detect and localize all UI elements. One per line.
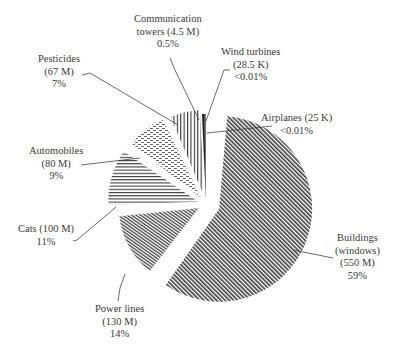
label-text: 14%: [95, 328, 144, 341]
label-text: (67 M): [38, 66, 80, 79]
label-text: Automobiles: [29, 145, 83, 158]
label-text: <0.01%: [221, 71, 280, 84]
label-buildings: Buildings (windows) (550 M) 59%: [335, 232, 380, 282]
label-text: 59%: [335, 270, 380, 283]
label-power-lines: Power lines (130 M) 14%: [95, 303, 144, 341]
pie-slices: [108, 110, 312, 301]
label-text: (windows): [335, 245, 380, 258]
label-text: (80 M): [29, 158, 83, 171]
label-text: 7%: [38, 78, 80, 91]
label-text: Cats (100 M): [18, 223, 74, 236]
label-comm-towers: Communication towers (4.5 M) 0.5%: [134, 13, 202, 51]
label-text: (130 M): [95, 316, 144, 329]
label-text: Wind turbines: [221, 46, 280, 59]
label-text: Buildings: [335, 232, 380, 245]
leader-line-comm: [170, 58, 199, 120]
label-text: (28.5 K): [221, 59, 280, 72]
leader-line-cats: [73, 207, 116, 241]
label-text: 11%: [18, 236, 74, 249]
label-text: Pesticides: [38, 53, 80, 66]
label-text: 0.5%: [134, 38, 202, 51]
label-text: Airplanes (25 K): [261, 112, 332, 125]
label-text: <0.01%: [261, 125, 332, 138]
label-automobiles: Automobiles (80 M) 9%: [29, 145, 83, 183]
leader-line-powerlines: [118, 274, 125, 301]
label-text: Power lines: [95, 303, 144, 316]
label-text: Communication: [134, 13, 202, 26]
label-airplanes: Airplanes (25 K) <0.01%: [261, 112, 332, 137]
label-pesticides: Pesticides (67 M) 7%: [38, 53, 80, 91]
label-wind-turbines: Wind turbines (28.5 K) <0.01%: [221, 46, 280, 84]
leader-line-pesticides: [82, 73, 178, 125]
label-text: 9%: [29, 170, 83, 183]
label-text: (550 M): [335, 257, 380, 270]
label-cats: Cats (100 M) 11%: [18, 223, 74, 248]
label-text: towers (4.5 M): [134, 26, 202, 39]
